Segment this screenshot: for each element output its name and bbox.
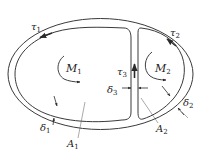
delta2-label: δ2 (183, 97, 194, 110)
tau1-label: τ1 (31, 21, 41, 34)
delta1-arrow-outer (54, 96, 57, 106)
delta2-leader (182, 112, 188, 118)
delta2-arrow-outer (178, 108, 184, 115)
M1-label: M1 (65, 62, 82, 76)
delta2-arrow-inner (162, 86, 170, 96)
A1-label: A1 (66, 138, 79, 151)
A2-label: A2 (155, 123, 168, 136)
two-cell-section-diagram: τ1 τ2 τ3 M1 M2 δ1 δ2 δ3 A1 A2 (0, 0, 204, 161)
tau1-arrow (40, 33, 52, 38)
delta3-label: δ3 (107, 84, 118, 97)
delta1-arrow-inner (53, 118, 54, 125)
A1-leader (78, 102, 85, 138)
tau3-label: τ3 (117, 66, 127, 79)
M2-label: M2 (154, 62, 171, 76)
delta1-label: δ1 (40, 122, 51, 135)
